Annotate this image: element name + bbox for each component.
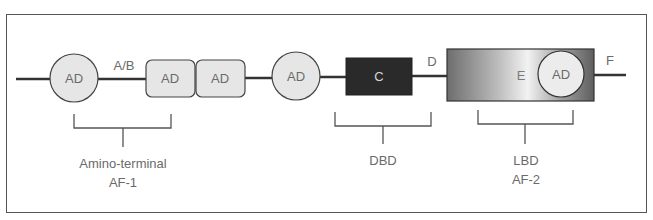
domain-c-box: C [346, 58, 412, 95]
ad-label: AD [161, 71, 179, 86]
af1-label-line1: Amino-terminal [79, 156, 167, 171]
ad-circle-1: AD [50, 54, 98, 102]
domain-ab-label: A/B [114, 58, 135, 73]
lbd-label-line1: LBD [513, 153, 538, 168]
domain-d-label: D [427, 54, 436, 69]
af1-label-line2: AF-1 [109, 175, 137, 190]
domain-c-label: C [374, 69, 383, 84]
ad-circle-2: AD [272, 52, 320, 100]
ad-label: AD [552, 67, 570, 82]
domain-f-label: F [606, 53, 614, 68]
bracket-af1 [74, 114, 171, 147]
domain-e-box: E AD [447, 49, 594, 101]
bracket-lbd [478, 110, 573, 144]
ad-box-2: AD [196, 60, 245, 97]
ad-label: AD [211, 71, 229, 86]
ad-label: AD [65, 71, 83, 86]
dbd-label: DBD [369, 153, 396, 168]
diagram-frame [7, 15, 647, 213]
ad-label: AD [287, 69, 305, 84]
nuclear-receptor-diagram: AD A/B AD AD AD C D E AD F Amino-termina… [0, 0, 653, 220]
bracket-dbd [335, 112, 431, 144]
lbd-label-line2: AF-2 [512, 172, 540, 187]
domain-e-label: E [517, 68, 526, 83]
ad-box-1: AD [146, 60, 195, 97]
